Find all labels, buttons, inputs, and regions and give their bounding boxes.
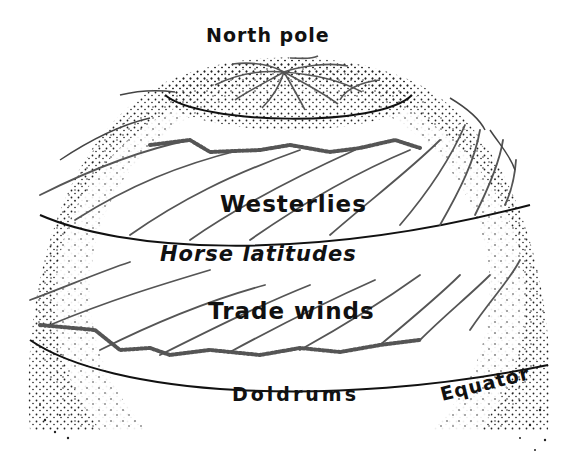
horse-latitudes-label: Horse latitudes (160, 244, 357, 265)
doldrums-label: Doldrums (232, 385, 359, 404)
polar-cap (165, 56, 415, 130)
trade-winds-label: Trade winds (208, 300, 375, 323)
north-pole-label: North pole (206, 26, 330, 45)
westerlies-label: Westerlies (220, 193, 367, 216)
